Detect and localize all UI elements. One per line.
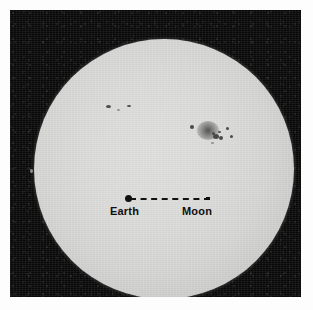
spot-group-satellite-a	[226, 127, 229, 130]
scale-dashed-line	[130, 198, 210, 200]
spot-group-core-b	[219, 136, 223, 140]
spot-group-core-c	[212, 132, 215, 135]
earth-moon-scale-annotation: Earth Moon	[122, 190, 217, 224]
photographic-plate: Earth Moon	[10, 10, 301, 297]
spot-group-core-d	[218, 131, 221, 133]
figure-container: Earth Moon	[0, 0, 313, 310]
moon-marker-tick	[206, 197, 210, 200]
spot-west-limb	[30, 169, 33, 173]
earth-marker-dot	[125, 195, 132, 202]
moon-label: Moon	[182, 205, 212, 218]
spot-group-northwest-b	[127, 105, 131, 107]
spot-isolated-east	[190, 125, 194, 129]
earth-label: Earth	[110, 205, 139, 218]
spot-group-northwest-a	[106, 105, 111, 108]
spot-northwest-faint	[117, 109, 120, 111]
spot-group-satellite-c	[211, 142, 214, 144]
spot-group-satellite-b	[230, 135, 233, 138]
solar-disk-grain	[34, 39, 294, 297]
solar-disk	[34, 39, 294, 297]
